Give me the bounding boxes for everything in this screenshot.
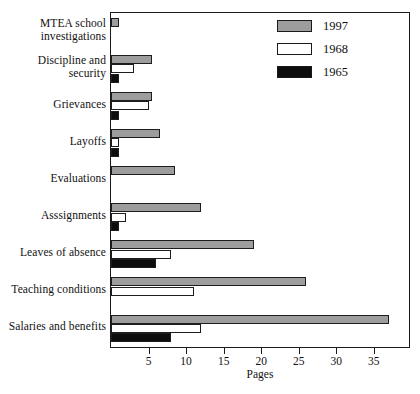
legend-label-1968: 1968 <box>323 41 348 57</box>
x-tick-label-15: 15 <box>209 355 239 367</box>
chart-legend: 199719681965 <box>277 18 373 87</box>
category-label-5: Asssignments <box>0 209 106 222</box>
legend-swatch-1997 <box>277 20 312 32</box>
category-label-6: Leaves of absence <box>0 246 106 259</box>
x-tick-label-25: 25 <box>284 355 314 367</box>
x-tick-25 <box>299 348 300 354</box>
category-label-line: Layoffs <box>0 135 106 148</box>
x-tick-10 <box>186 348 187 354</box>
bar-1997-0 <box>111 18 119 27</box>
bar-1965-8 <box>111 333 171 342</box>
category-label-line: security <box>0 67 106 80</box>
category-label-line: investigations <box>0 30 106 43</box>
legend-item-1997: 1997 <box>277 18 373 37</box>
category-label-line: Teaching conditions <box>0 283 106 296</box>
category-label-0: MTEA schoolinvestigations <box>0 17 106 42</box>
x-tick-label-30: 30 <box>321 355 351 367</box>
category-label-4: Evaluations <box>0 172 106 185</box>
x-tick-30 <box>336 348 337 354</box>
legend-item-1965: 1965 <box>277 64 373 83</box>
category-label-line: Asssignments <box>0 209 106 222</box>
bar-1968-1 <box>111 64 134 73</box>
bar-1965-5 <box>111 222 119 231</box>
bar-1965-6 <box>111 259 156 268</box>
x-tick-label-5: 5 <box>134 355 164 367</box>
bar-1968-7 <box>111 287 194 296</box>
category-label-1: Discipline andsecurity <box>0 54 106 79</box>
bar-1997-4 <box>111 166 175 175</box>
category-label-2: Grievances <box>0 98 106 111</box>
category-label-line: Grievances <box>0 98 106 111</box>
bar-1968-8 <box>111 324 201 333</box>
bar-1968-2 <box>111 101 149 110</box>
legend-swatch-1968 <box>277 43 312 55</box>
category-label-8: Salaries and benefits <box>0 320 106 333</box>
x-tick-label-10: 10 <box>171 355 201 367</box>
x-tick-20 <box>261 348 262 354</box>
category-axis: MTEA schoolinvestigationsDiscipline ands… <box>0 12 106 348</box>
bar-1965-1 <box>111 74 119 83</box>
category-label-line: Evaluations <box>0 172 106 185</box>
bar-1997-1 <box>111 55 152 64</box>
bar-1997-3 <box>111 129 160 138</box>
category-label-7: Teaching conditions <box>0 283 106 296</box>
category-label-line: Salaries and benefits <box>0 320 106 333</box>
bar-1997-6 <box>111 240 254 249</box>
bar-1968-3 <box>111 138 119 147</box>
x-tick-35 <box>374 348 375 354</box>
bar-1965-2 <box>111 111 119 120</box>
x-tick-label-20: 20 <box>246 355 276 367</box>
x-tick-label-35: 35 <box>359 355 389 367</box>
bar-1965-3 <box>111 148 119 157</box>
legend-item-1968: 1968 <box>277 41 373 60</box>
bar-1997-7 <box>111 277 306 286</box>
x-axis-title: Pages <box>110 368 410 380</box>
category-label-line: Discipline and <box>0 54 106 67</box>
category-label-line: Leaves of absence <box>0 246 106 259</box>
bar-1968-5 <box>111 213 126 222</box>
bar-1997-8 <box>111 315 389 324</box>
legend-label-1997: 1997 <box>323 18 348 34</box>
bar-1997-5 <box>111 203 201 212</box>
category-label-3: Layoffs <box>0 135 106 148</box>
x-tick-5 <box>149 348 150 354</box>
legend-label-1965: 1965 <box>323 64 348 80</box>
bar-1997-2 <box>111 92 152 101</box>
bar-chart-figure: MTEA schoolinvestigationsDiscipline ands… <box>0 0 420 394</box>
category-label-line: MTEA school <box>0 17 106 30</box>
legend-swatch-1965 <box>277 66 312 78</box>
x-tick-15 <box>224 348 225 354</box>
bar-1968-6 <box>111 250 171 259</box>
